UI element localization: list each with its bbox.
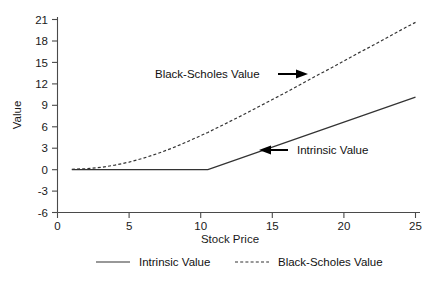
- annotation-label-intrinsic: Intrinsic Value: [297, 144, 368, 156]
- x-axis-title: Stock Price: [201, 233, 259, 245]
- y-tick-label-18: 18: [35, 35, 48, 47]
- y-axis-title: Value: [11, 101, 23, 130]
- y-tick-label-21: 21: [35, 14, 48, 26]
- legend-label-black-scholes-value: Black-Scholes Value: [278, 256, 383, 268]
- chart-figure: 21 18 15 12 9 6 3 0 -3 -6 Value 0 5 10 1…: [0, 0, 434, 283]
- x-tick-label-20: 20: [338, 220, 351, 232]
- x-tick-label-25: 25: [409, 220, 422, 232]
- x-tick-label-15: 15: [266, 220, 279, 232]
- y-tick-label-15: 15: [35, 57, 48, 69]
- option-value-chart: 21 18 15 12 9 6 3 0 -3 -6 Value 0 5 10 1…: [0, 0, 434, 283]
- legend-label-intrinsic-value: Intrinsic Value: [139, 256, 210, 268]
- x-tick-label-10: 10: [194, 220, 207, 232]
- y-tick-label-9: 9: [42, 99, 48, 111]
- y-tick-label-12: 12: [35, 78, 48, 90]
- annotation-label-black-scholes: Black-Scholes Value: [155, 68, 260, 80]
- x-tick-label-5: 5: [126, 220, 132, 232]
- y-tick-label-6: 6: [42, 121, 48, 133]
- y-tick-label-3: 3: [42, 142, 48, 154]
- y-tick-label-0: 0: [42, 164, 48, 176]
- y-tick-label-neg3: -3: [38, 185, 48, 197]
- x-tick-label-0: 0: [54, 220, 60, 232]
- y-tick-label-neg6: -6: [38, 207, 48, 219]
